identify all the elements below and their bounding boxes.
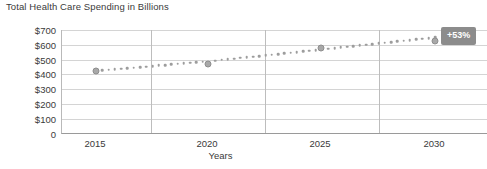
series-dot [402, 39, 405, 42]
series-dot [126, 67, 129, 70]
x-tick-label-2030: 2030 [423, 138, 444, 149]
series-dot [132, 66, 135, 69]
chart-container: Total Health Care Spending in Billions $… [0, 0, 487, 169]
series-dot [346, 45, 349, 48]
series-dot [415, 38, 418, 41]
series-dot [277, 53, 280, 56]
series-dot [390, 41, 393, 44]
series-dot [227, 58, 230, 61]
series-dot [289, 51, 292, 54]
series-dot [120, 67, 123, 70]
series-dot [396, 40, 399, 43]
series-dot [314, 49, 317, 52]
series-dot [145, 65, 148, 68]
series-dot [283, 52, 286, 55]
series-dot [157, 64, 160, 67]
series-dot [183, 62, 186, 65]
y-tick-label: $600 [0, 40, 56, 51]
series-dot [195, 61, 198, 64]
data-point-2020[interactable] [205, 61, 212, 68]
y-tick-label: $300 [0, 84, 56, 95]
y-tick-label: $400 [0, 69, 56, 80]
y-tick-label: 0 [0, 129, 56, 140]
series-dot [383, 41, 386, 44]
data-point-2015[interactable] [93, 68, 100, 75]
data-point-2025[interactable] [318, 45, 325, 52]
series-dot [371, 43, 374, 46]
gridline-horizontal [62, 45, 487, 46]
series-dot [258, 55, 261, 58]
series-dot [365, 43, 368, 46]
series-dot [358, 44, 361, 47]
series-dot [245, 56, 248, 59]
series-dot [176, 63, 179, 66]
gridline-horizontal [62, 60, 487, 61]
x-axis-title-text: Years [209, 150, 233, 161]
gridline-horizontal [62, 119, 487, 120]
series-dot [377, 42, 380, 45]
x-tick-label-2015: 2015 [84, 138, 105, 149]
series-dot [333, 47, 336, 50]
y-tick-label: $100 [0, 114, 56, 125]
gridline-horizontal [62, 104, 487, 105]
y-tick-label: $700 [0, 25, 56, 36]
x-axis-title: Years [0, 150, 487, 161]
plot-area [61, 30, 487, 134]
growth-badge[interactable]: +53% [441, 27, 476, 45]
series-dot [189, 62, 192, 65]
y-tick-label: $200 [0, 99, 56, 110]
series-dot [296, 51, 299, 54]
gridline-horizontal [62, 30, 487, 31]
series-dot [409, 39, 412, 42]
series-dot [421, 37, 424, 40]
series-dot [340, 46, 343, 49]
series-dot [327, 47, 330, 50]
series-dot [114, 68, 117, 71]
series-dot [233, 57, 236, 60]
series-dot [101, 69, 104, 72]
series-dot [107, 68, 110, 71]
series-dot [139, 66, 142, 69]
y-tick-label: $500 [0, 55, 56, 66]
data-point-2030[interactable] [432, 38, 439, 45]
gridline-horizontal [62, 89, 487, 90]
x-tick-label-2020: 2020 [196, 138, 217, 149]
gridline-vertical [151, 30, 152, 133]
series-dot [270, 53, 273, 56]
gridline-vertical [379, 30, 380, 133]
gridline-horizontal [62, 74, 487, 75]
series-dot [164, 64, 167, 67]
series-dot [239, 57, 242, 60]
series-dot [308, 49, 311, 52]
series-dot [170, 63, 173, 66]
series-dot [220, 59, 223, 62]
series-dot [264, 54, 267, 57]
series-dot [427, 37, 430, 40]
gridline-vertical [265, 30, 266, 133]
series-dot [302, 50, 305, 53]
series-dot [252, 55, 255, 58]
x-tick-label-2025: 2025 [309, 138, 330, 149]
series-dot [214, 59, 217, 62]
series-dot [352, 45, 355, 48]
series-dot [151, 65, 154, 68]
